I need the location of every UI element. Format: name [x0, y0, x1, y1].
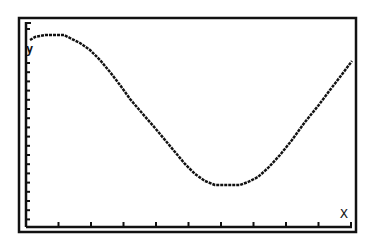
- function-curve: [30, 35, 352, 185]
- graph-canvas: y X: [0, 0, 374, 242]
- calculator-graph-screen: y X: [0, 0, 374, 242]
- outer-frame: [19, 18, 356, 232]
- x-axis-label: X: [340, 206, 348, 221]
- y-axis-label: y: [26, 42, 33, 56]
